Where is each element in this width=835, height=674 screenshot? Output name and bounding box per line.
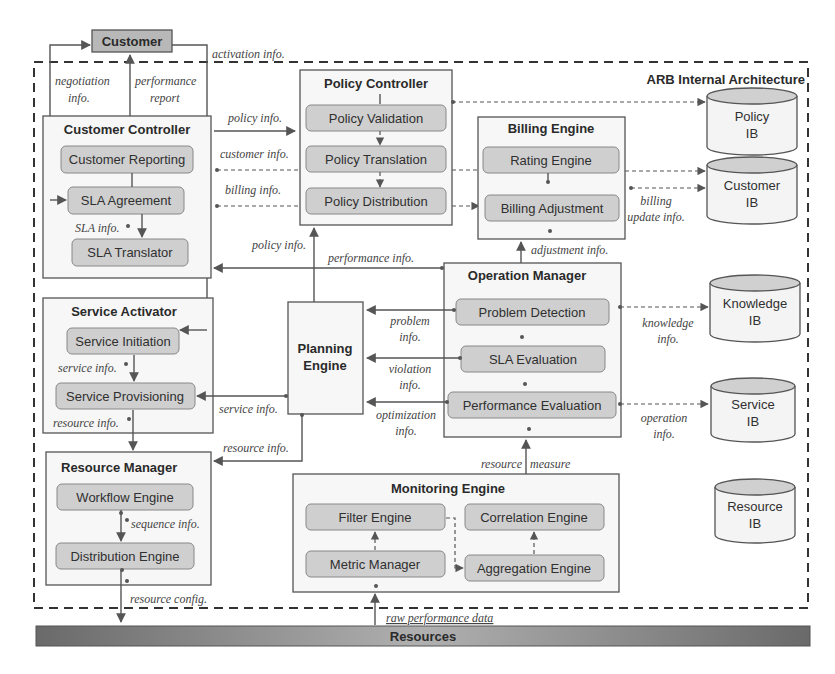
service-ib[interactable]: Service IB [711, 378, 795, 442]
performance-report-label-1: performance [134, 74, 197, 88]
billing-info-label: billing info. [225, 183, 281, 197]
negotiation-label-2: info. [68, 91, 90, 105]
filter-engine-label: Filter Engine [339, 510, 412, 525]
resource-measure-label-1: resource [481, 457, 523, 471]
knowledge-info-label-2: info. [657, 332, 679, 346]
planning-engine[interactable]: Planning Engine [288, 302, 363, 414]
planning-engine-title-1: Planning [298, 341, 353, 356]
metric-manager-label: Metric Manager [330, 557, 421, 572]
problem-detection-label: Problem Detection [479, 305, 586, 320]
distribution-engine-label: Distribution Engine [70, 549, 179, 564]
sla-evaluation-label: SLA Evaluation [489, 352, 577, 367]
service-provisioning-label: Service Provisioning [66, 389, 184, 404]
architecture-diagram: ARB Internal Architecture Customer activ… [0, 0, 835, 674]
sla-info-label: SLA info. [75, 221, 119, 235]
billing-adjustment-label: Billing Adjustment [501, 201, 604, 216]
activation-info-label: activation info. [212, 47, 285, 61]
customer-label: Customer [102, 34, 163, 49]
correlation-engine-label: Correlation Engine [480, 510, 588, 525]
service-ib-label-2: IB [747, 414, 759, 429]
planning-engine-title-2: Engine [303, 358, 346, 373]
service-initiation-label: Service Initiation [75, 334, 170, 349]
operation-manager-title: Operation Manager [468, 268, 586, 283]
service-activator-title: Service Activator [71, 304, 177, 319]
resource-ib[interactable]: Resource IB [715, 479, 795, 543]
billing-engine-title: Billing Engine [508, 121, 595, 136]
operation-manager[interactable]: Operation Manager Problem Detection SLA … [444, 263, 621, 437]
performance-info-label: performance info. [327, 251, 414, 265]
problem-info-label-1: problem [389, 314, 430, 328]
sequence-info-label: sequence info. [131, 517, 200, 531]
policy-controller-title: Policy Controller [324, 76, 428, 91]
optimization-info-label-2: info. [395, 424, 417, 438]
resource-config-label: resource config. [130, 592, 207, 606]
customer-ib-label-1: Customer [724, 178, 781, 193]
billing-update-label-1: billing [640, 194, 671, 208]
policy-info-top-label: policy info. [227, 111, 282, 125]
policy-distribution-label: Policy Distribution [324, 194, 427, 209]
boundary-label: ARB Internal Architecture [647, 72, 805, 87]
monitoring-engine-title: Monitoring Engine [391, 481, 505, 496]
resource-info-pe-label: resource info. [223, 441, 289, 455]
aggregation-engine-label: Aggregation Engine [477, 561, 591, 576]
customer-node[interactable]: Customer [92, 30, 172, 52]
policy-ib[interactable]: Policy IB [707, 88, 797, 155]
violation-info-label-1: violation [389, 362, 432, 376]
resource-measure-label-2: measure [530, 457, 571, 471]
sla-agreement-label: SLA Agreement [81, 193, 172, 208]
violation-info-label-2: info. [399, 378, 421, 392]
adjustment-info-label: adjustment info. [531, 243, 608, 257]
rating-engine-label: Rating Engine [510, 153, 592, 168]
knowledge-ib-label-1: Knowledge [723, 296, 787, 311]
performance-evaluation-label: Performance Evaluation [463, 398, 602, 413]
resource-ib-label-2: IB [749, 516, 761, 531]
customer-info-label: customer info. [220, 147, 289, 161]
resource-manager-title: Resource Manager [61, 460, 177, 475]
service-info-sa-label: service info. [58, 361, 117, 375]
policy-info-mid-label: policy info. [251, 238, 306, 252]
service-ib-label-1: Service [731, 397, 774, 412]
service-info-pe-label: service info. [219, 402, 278, 416]
sla-translator-label: SLA Translator [87, 245, 173, 260]
resources-label: Resources [390, 629, 456, 644]
problem-info-label-2: info. [399, 330, 421, 344]
optimization-info-label-1: optimization [376, 408, 436, 422]
policy-validation-label: Policy Validation [329, 111, 423, 126]
knowledge-ib-label-2: IB [749, 313, 761, 328]
resource-ib-label-1: Resource [727, 499, 783, 514]
customer-ib-label-2: IB [746, 195, 758, 210]
performance-report-label-2: report [150, 91, 180, 105]
customer-reporting-label: Customer Reporting [69, 152, 185, 167]
billing-update-label-2: update info. [627, 210, 684, 224]
policy-ib-label-2: IB [746, 126, 758, 141]
knowledge-ib[interactable]: Knowledge IB [710, 275, 800, 342]
customer-controller[interactable]: Customer Controller Customer Reporting S… [43, 116, 211, 278]
resource-info-sa-label: resource info. [53, 416, 119, 430]
monitoring-engine[interactable]: Monitoring Engine Filter Engine Correlat… [293, 474, 619, 592]
policy-controller[interactable]: Policy Controller Policy Validation Poli… [300, 70, 452, 225]
resources-bar[interactable]: Resources [36, 626, 810, 646]
knowledge-info-label-1: knowledge [642, 316, 694, 330]
operation-info-label-2: info. [653, 427, 675, 441]
workflow-engine-label: Workflow Engine [76, 490, 173, 505]
raw-performance-data-label: raw performance data [386, 611, 493, 625]
negotiation-label-1: negotiation [55, 74, 110, 88]
customer-controller-title: Customer Controller [64, 122, 190, 137]
customer-ib[interactable]: Customer IB [707, 157, 797, 224]
billing-engine[interactable]: Billing Engine Rating Engine Billing Adj… [478, 117, 625, 239]
operation-info-label-1: operation [641, 411, 688, 425]
policy-translation-label: Policy Translation [325, 152, 427, 167]
policy-ib-label-1: Policy [735, 109, 770, 124]
